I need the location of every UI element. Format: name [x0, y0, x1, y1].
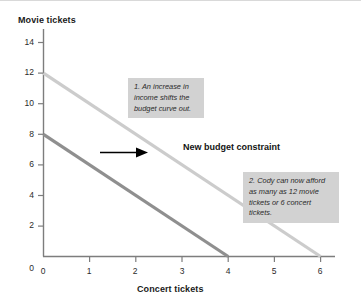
- y-tick-label-4: 4: [14, 190, 34, 200]
- y-tick-label-10: 10: [14, 98, 34, 108]
- annotation-callout-two: 2. Cody can now afford as many as 12 mov…: [243, 172, 339, 223]
- x-axis-ticks: [90, 257, 321, 263]
- y-axis-title: Movie tickets: [18, 15, 76, 25]
- x-tick-label-0: 0: [36, 266, 50, 276]
- x-tick-label-3: 3: [175, 266, 189, 276]
- figure-container: Movie tickets Concert tickets 14 12 10 8…: [0, 0, 361, 301]
- budget-constraint-chart: [0, 1, 361, 301]
- x-tick-label-1: 1: [82, 266, 96, 276]
- y-tick-label-2: 2: [14, 220, 34, 230]
- x-axis-title: Concert tickets: [137, 284, 204, 294]
- shift-arrow-icon: [100, 148, 148, 158]
- y-axis-ticks: [38, 43, 44, 227]
- new-budget-constraint-label: New budget constraint: [183, 142, 280, 152]
- y-tick-label-6: 6: [14, 159, 34, 169]
- y-tick-label-8: 8: [14, 129, 34, 139]
- y-tick-label-0: 0: [14, 263, 34, 273]
- annotation-callout-one: 1. An increase in income shifts the budg…: [128, 78, 204, 118]
- x-tick-label-4: 4: [221, 266, 235, 276]
- y-tick-label-12: 12: [14, 67, 34, 77]
- y-tick-label-14: 14: [14, 37, 34, 47]
- x-tick-label-6: 6: [313, 266, 327, 276]
- x-tick-label-5: 5: [267, 266, 281, 276]
- x-tick-label-2: 2: [128, 266, 142, 276]
